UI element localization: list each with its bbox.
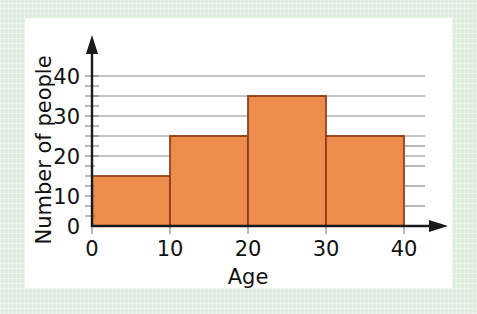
y-tick-labels: 40 30 20 10 0 <box>53 65 80 239</box>
x-tick-label-40: 40 <box>391 237 418 261</box>
y-tick-label-0: 0 <box>67 215 80 239</box>
x-tick-label-20: 20 <box>235 237 262 261</box>
figure-card: 40 30 20 10 0 0 10 20 30 40 Age Number o… <box>25 18 452 288</box>
x-tick-label-30: 30 <box>313 237 340 261</box>
x-axis-arrow-icon <box>429 220 448 232</box>
y-axis-title: Number of people <box>32 55 56 244</box>
x-tick-label-0: 0 <box>85 237 98 261</box>
y-axis-arrow-icon <box>86 35 98 54</box>
y-tick-label-10: 10 <box>53 185 80 209</box>
y-tick-label-30: 30 <box>53 105 80 129</box>
bar-30-40 <box>326 136 404 226</box>
bar-10-20 <box>170 136 248 226</box>
bar-20-30 <box>248 96 326 226</box>
x-axis-title: Age <box>228 265 269 288</box>
y-tick-label-40: 40 <box>53 65 80 89</box>
histogram-chart: 40 30 20 10 0 0 10 20 30 40 Age Number o… <box>25 18 452 288</box>
right-edge-ticks <box>404 146 425 206</box>
bar-0-10 <box>92 176 170 226</box>
x-tick-label-10: 10 <box>157 237 184 261</box>
x-tick-labels: 0 10 20 30 40 <box>85 237 417 261</box>
y-tick-label-20: 20 <box>53 145 80 169</box>
chart-canvas: 40 30 20 10 0 0 10 20 30 40 Age Number o… <box>25 18 452 288</box>
